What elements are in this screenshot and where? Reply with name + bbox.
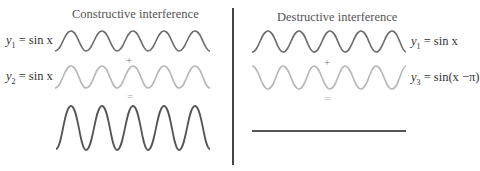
label-rhs: = sin x	[421, 34, 458, 48]
left-wave-y2	[55, 66, 210, 88]
right-label-y3: y3 = sin(x −π)	[411, 70, 480, 87]
left-wave-y1	[55, 31, 210, 51]
right-panel-title: Destructive interference	[277, 10, 397, 25]
right-equals-sign: =	[324, 92, 330, 104]
left-equals-sign: =	[127, 90, 133, 102]
right-wave-y3	[252, 66, 406, 89]
label-rhs: = sin x	[16, 69, 53, 83]
left-label-y2: y2 = sin x	[6, 69, 53, 86]
right-wave-y1	[252, 31, 406, 52]
left-wave-sum	[56, 106, 210, 150]
right-label-y1: y1 = sin x	[411, 34, 458, 51]
left-label-y1: y1 = sin x	[6, 33, 53, 50]
label-rhs: = sin x	[16, 33, 53, 47]
left-plus-sign: +	[126, 54, 132, 66]
label-rhs: = sin(x −π)	[421, 70, 480, 84]
right-plus-sign: +	[324, 56, 330, 68]
left-panel-title: Constructive interference	[72, 7, 199, 22]
